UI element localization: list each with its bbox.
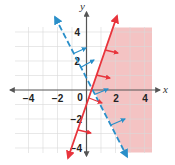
x-tick-label: −2 [52,93,64,104]
x-tick-label: 2 [113,93,119,104]
y-tick-label: 4 [74,27,80,38]
coordinate-graph: x y −4 −2 2 4 4 2 −2 −4 0 [0,0,175,165]
x-axis-label: x [162,83,168,95]
origin-label: 0 [77,92,83,103]
x-tick-label: −4 [23,93,35,104]
x-tick-label: 4 [142,93,148,104]
y-axis-label: y [79,0,85,12]
